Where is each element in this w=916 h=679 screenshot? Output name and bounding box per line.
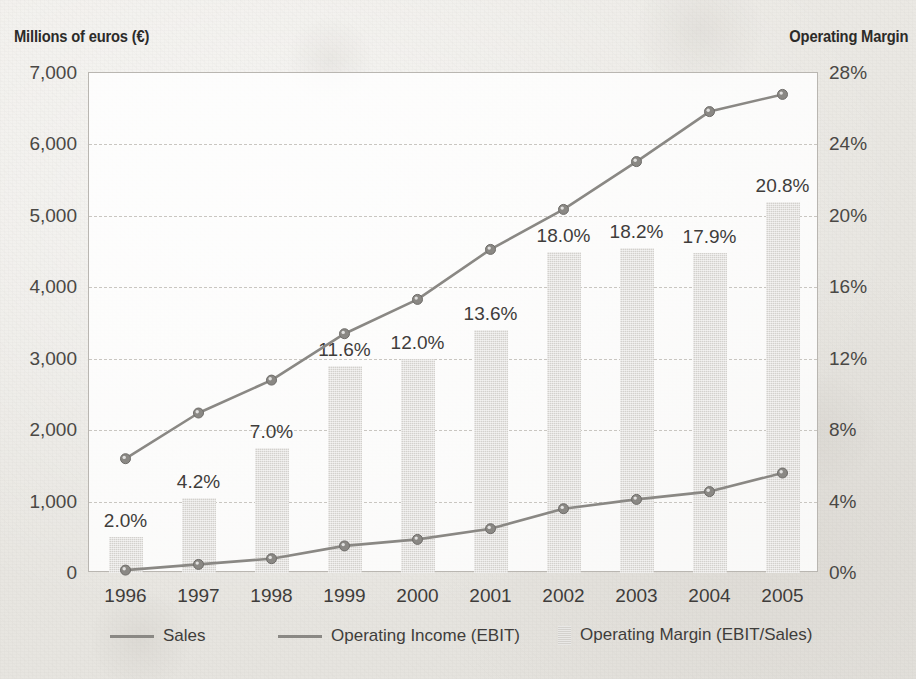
data-point-marker bbox=[194, 559, 204, 569]
chart-page: Millions of euros (€) Operating Margin 0… bbox=[0, 0, 916, 679]
margin-bar-icon bbox=[558, 626, 571, 645]
data-point-marker bbox=[632, 494, 642, 504]
data-point-marker bbox=[413, 294, 423, 304]
data-point-marker-highlight bbox=[780, 470, 783, 473]
data-point-marker-highlight bbox=[561, 506, 564, 509]
left-axis-title: Millions of euros (€) bbox=[14, 28, 149, 46]
data-point-marker-highlight bbox=[488, 246, 491, 249]
x-tick-label: 1997 bbox=[177, 585, 219, 607]
legend-label-ebit: Operating Income (EBIT) bbox=[331, 626, 520, 646]
x-tick-label: 2003 bbox=[615, 585, 657, 607]
line-operating-income-ebit bbox=[126, 473, 783, 570]
data-point-marker-highlight bbox=[123, 567, 126, 570]
legend-item-margin[interactable]: Operating Margin (EBIT/Sales) bbox=[558, 625, 812, 645]
x-tick-label: 1998 bbox=[250, 585, 292, 607]
data-point-marker bbox=[778, 89, 788, 99]
data-point-marker-highlight bbox=[269, 377, 272, 380]
x-tick-label: 2000 bbox=[396, 585, 438, 607]
right-tick-label: 0% bbox=[829, 563, 856, 582]
data-point-marker bbox=[632, 157, 642, 167]
right-axis-title: Operating Margin bbox=[789, 28, 908, 46]
left-tick-label: 2,000 bbox=[29, 420, 77, 439]
left-tick-label: 6,000 bbox=[29, 134, 77, 153]
right-tick-label: 12% bbox=[829, 349, 867, 368]
data-point-marker-highlight bbox=[196, 561, 199, 564]
left-tick-label: 0 bbox=[66, 563, 77, 582]
right-tick-label: 8% bbox=[829, 420, 856, 439]
data-point-marker-highlight bbox=[342, 543, 345, 546]
legend-item-ebit[interactable]: Operating Income (EBIT) bbox=[278, 626, 520, 646]
data-point-marker-highlight bbox=[780, 91, 783, 94]
sales-line-icon bbox=[110, 635, 154, 638]
data-point-marker bbox=[121, 454, 131, 464]
data-point-marker bbox=[559, 504, 569, 514]
data-point-marker-highlight bbox=[123, 456, 126, 459]
right-tick-label: 28% bbox=[829, 63, 867, 82]
line-sales bbox=[126, 94, 783, 458]
data-point-marker-highlight bbox=[707, 489, 710, 492]
ebit-line-icon bbox=[278, 635, 322, 638]
legend-label-margin: Operating Margin (EBIT/Sales) bbox=[580, 625, 812, 645]
data-point-marker-highlight bbox=[561, 206, 564, 209]
data-point-marker bbox=[705, 107, 715, 117]
x-tick-label: 1996 bbox=[104, 585, 146, 607]
data-point-marker bbox=[267, 375, 277, 385]
left-tick-label: 5,000 bbox=[29, 206, 77, 225]
right-tick-label: 4% bbox=[829, 492, 856, 511]
x-tick-label: 2004 bbox=[688, 585, 730, 607]
data-point-marker bbox=[340, 329, 350, 339]
data-point-marker bbox=[340, 541, 350, 551]
data-point-marker bbox=[486, 244, 496, 254]
data-point-marker bbox=[413, 534, 423, 544]
data-point-marker bbox=[486, 524, 496, 534]
right-tick-label: 24% bbox=[829, 134, 867, 153]
x-tick-label: 2002 bbox=[542, 585, 584, 607]
data-point-marker-highlight bbox=[342, 331, 345, 334]
right-tick-label: 16% bbox=[829, 277, 867, 296]
x-tick-label: 1999 bbox=[323, 585, 365, 607]
left-tick-label: 7,000 bbox=[29, 63, 77, 82]
data-point-marker-highlight bbox=[634, 496, 637, 499]
data-point-marker bbox=[267, 554, 277, 564]
plot-area: 01,0002,0003,0004,0005,0006,0007,000 0%4… bbox=[88, 72, 818, 572]
right-tick-label: 20% bbox=[829, 206, 867, 225]
chart-legend: Sales Operating Income (EBIT) Operating … bbox=[88, 622, 818, 652]
data-point-marker-highlight bbox=[634, 159, 637, 162]
x-tick-label: 2005 bbox=[761, 585, 803, 607]
data-point-marker-highlight bbox=[488, 526, 491, 529]
left-tick-label: 4,000 bbox=[29, 277, 77, 296]
data-point-marker-highlight bbox=[196, 410, 199, 413]
legend-label-sales: Sales bbox=[163, 626, 206, 646]
left-tick-label: 1,000 bbox=[29, 492, 77, 511]
data-point-marker bbox=[121, 565, 131, 575]
data-point-marker-highlight bbox=[415, 536, 418, 539]
data-point-marker bbox=[778, 468, 788, 478]
data-point-marker bbox=[705, 487, 715, 497]
data-point-marker-highlight bbox=[269, 556, 272, 559]
data-point-marker bbox=[194, 408, 204, 418]
data-point-marker-highlight bbox=[415, 296, 418, 299]
left-tick-label: 3,000 bbox=[29, 349, 77, 368]
data-point-marker bbox=[559, 204, 569, 214]
legend-item-sales[interactable]: Sales bbox=[110, 626, 206, 646]
x-tick-label: 2001 bbox=[469, 585, 511, 607]
data-point-marker-highlight bbox=[707, 109, 710, 112]
line-series-overlay bbox=[89, 73, 819, 573]
